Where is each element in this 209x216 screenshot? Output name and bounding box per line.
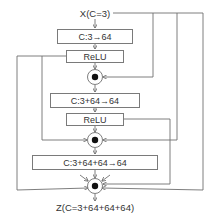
relu-block-1: ReLU bbox=[66, 50, 124, 63]
input-label: X(C=3) bbox=[80, 8, 110, 19]
conv-block-1: C:3→64 bbox=[57, 29, 133, 44]
conv-block-3-label: C:3+64+64→64 bbox=[63, 158, 127, 168]
relu-block-2-label: ReLU bbox=[83, 115, 106, 125]
merge-node-1 bbox=[88, 70, 103, 85]
merge-node-2 bbox=[88, 133, 103, 148]
conv-block-2-label: C:3+64→64 bbox=[71, 96, 119, 106]
relu-block-2: ReLU bbox=[66, 113, 124, 126]
conv-block-1-label: C:3→64 bbox=[78, 32, 111, 42]
conv-block-3: C:3+64+64→64 bbox=[32, 155, 158, 170]
relu-block-1-label: ReLU bbox=[83, 52, 106, 62]
conv-block-2: C:3+64→64 bbox=[50, 93, 140, 108]
merge-node-3 bbox=[88, 179, 103, 194]
output-label: Z(C=3+64+64+64) bbox=[56, 202, 134, 213]
